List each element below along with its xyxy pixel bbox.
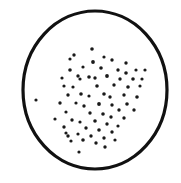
specimen-dot — [89, 134, 92, 137]
specimen-dot — [124, 61, 127, 64]
specimen-dot — [134, 68, 137, 71]
specimen-dot — [87, 75, 91, 79]
specimen-dot — [77, 150, 80, 153]
specimen-dot — [122, 93, 125, 96]
specimen-dot — [102, 136, 105, 139]
specimen-dot — [78, 120, 81, 123]
specimen-dot — [91, 60, 95, 64]
specimen-dot — [110, 58, 113, 61]
specimen-dot — [68, 68, 72, 72]
specimen-dot — [138, 84, 141, 87]
specimen-dot — [132, 108, 135, 111]
specimen-dot — [99, 66, 103, 70]
specimen-dot — [94, 141, 97, 144]
specimen-dot — [87, 94, 90, 97]
specimen-dot — [117, 108, 120, 111]
specimen-dot — [68, 57, 71, 60]
specimen-dot — [79, 92, 83, 96]
specimen-dot — [81, 138, 85, 142]
specimen-dot — [84, 126, 87, 129]
specimen-dot — [103, 145, 106, 148]
specimen-dot — [135, 95, 139, 99]
specimen-dot — [125, 102, 129, 106]
specimen-dot — [70, 118, 73, 121]
specimen-dot — [109, 115, 112, 118]
specimen-dot — [78, 77, 81, 80]
specimen-dot — [102, 55, 105, 58]
specimen-dot — [95, 84, 99, 88]
specimen-dot — [110, 103, 113, 106]
specimen-dot — [140, 77, 143, 80]
specimen-dot — [76, 132, 79, 135]
specimen-dot — [66, 93, 69, 96]
specimen-dot — [72, 53, 75, 56]
specimen-dot — [64, 110, 67, 113]
specimen-dot — [143, 68, 146, 71]
specimen-dot — [126, 85, 130, 89]
specimen-dot — [101, 112, 105, 116]
specimen-dot — [102, 92, 106, 96]
specimen-dot — [116, 68, 119, 71]
specimen-dot — [124, 71, 128, 75]
specimen-dot — [62, 125, 65, 128]
specimen-dot — [90, 47, 94, 51]
specimen-dot — [62, 84, 65, 87]
field-of-view-circle — [23, 11, 167, 169]
specimen-dot — [131, 77, 135, 81]
figure-container — [0, 0, 181, 183]
specimen-dot — [82, 104, 85, 107]
specimen-dot — [112, 83, 115, 86]
specimen-dot — [71, 85, 74, 88]
specimen-dot — [34, 98, 37, 101]
specimen-dot — [97, 102, 101, 106]
specimen-dot — [108, 95, 111, 98]
specimen-dot — [88, 111, 91, 114]
specimen-dot — [69, 139, 72, 142]
specimen-dot — [58, 101, 61, 104]
specimen-dot — [93, 119, 97, 123]
specimen-dot — [53, 117, 56, 120]
specimen-dot — [97, 128, 101, 132]
specimen-dot — [64, 131, 67, 134]
specimen-dot — [76, 74, 79, 77]
specimen-dot — [110, 130, 113, 133]
specimen-dot — [81, 65, 84, 68]
specimen-dot — [116, 124, 119, 127]
scatter-plot-figure — [0, 0, 181, 183]
specimen-dot — [66, 134, 69, 137]
specimen-dot — [113, 138, 116, 141]
specimen-dot — [118, 77, 121, 80]
specimen-dot — [122, 116, 125, 119]
specimen-dot — [60, 76, 63, 79]
specimen-dot — [105, 122, 108, 125]
specimen-dot — [93, 76, 96, 79]
specimen-dot — [74, 101, 77, 104]
specimen-dot — [105, 74, 109, 78]
